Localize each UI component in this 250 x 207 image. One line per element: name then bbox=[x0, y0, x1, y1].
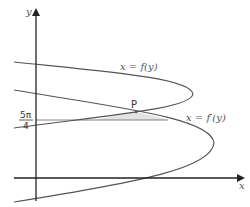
y-tick-denominator: 4 bbox=[23, 121, 29, 131]
x-axis-label: x bbox=[239, 180, 245, 191]
y-axis-label: y bbox=[25, 6, 32, 17]
point-p-marker bbox=[135, 111, 137, 113]
curve-f-label: x = f(y) bbox=[120, 61, 158, 72]
curve-f-prime bbox=[14, 90, 214, 202]
y-tick-numerator: 5π bbox=[20, 110, 32, 120]
diagram-canvas: y x x = f(y) x = f′(y) P 5π 4 bbox=[0, 0, 250, 207]
point-p-label: P bbox=[131, 99, 137, 110]
curve-f-prime-label: x = f′(y) bbox=[186, 112, 226, 123]
